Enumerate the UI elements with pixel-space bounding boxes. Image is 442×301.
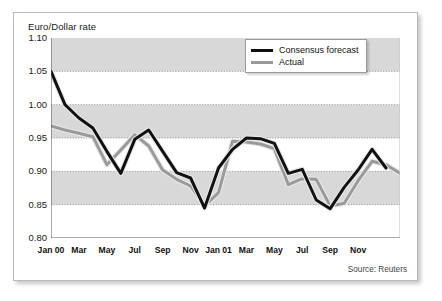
x-axis-tick-label: Mar bbox=[71, 245, 86, 255]
y-axis-tick-label: 0.80 bbox=[19, 232, 47, 243]
y-axis-tick-label: 0.95 bbox=[19, 132, 47, 143]
x-axis-tick-label: Jul bbox=[129, 245, 141, 255]
y-axis-tick-label: 1.10 bbox=[19, 32, 47, 43]
x-axis-tick-label: Sep bbox=[155, 245, 171, 255]
legend-item-actual: Actual bbox=[251, 56, 359, 68]
legend-swatch-consensus-forecast bbox=[251, 49, 273, 52]
x-axis-tick-label: May bbox=[98, 245, 115, 255]
x-axis-tick-label: May bbox=[266, 245, 283, 255]
legend-swatch-actual bbox=[251, 61, 273, 64]
x-axis-tick-label: Jul bbox=[296, 245, 308, 255]
legend-label-actual: Actual bbox=[279, 57, 304, 68]
y-axis-tick-label: 1.00 bbox=[19, 99, 47, 110]
y-axis-title: Euro/Dollar rate bbox=[28, 21, 96, 32]
legend-item-consensus-forecast: Consensus forecast bbox=[251, 44, 359, 56]
x-axis-tick-label: Jan 00 bbox=[38, 245, 65, 255]
y-axis-tick-label: 0.85 bbox=[19, 199, 47, 210]
x-axis-tick-label: Mar bbox=[239, 245, 254, 255]
x-axis-tick-label: Jan 01 bbox=[205, 245, 232, 255]
legend-label-consensus-forecast: Consensus forecast bbox=[279, 45, 359, 56]
y-axis-tick-label: 1.05 bbox=[19, 65, 47, 76]
chart-legend: Consensus forecast Actual bbox=[245, 39, 367, 73]
x-axis-tick-label: Nov bbox=[182, 245, 198, 255]
x-axis-tick-label: Sep bbox=[322, 245, 338, 255]
y-axis-tick-label: 0.90 bbox=[19, 165, 47, 176]
x-axis-tick-label: Nov bbox=[350, 245, 366, 255]
source-note: Source: Reuters bbox=[348, 265, 407, 274]
chart-card: Euro/Dollar rate 1.101.051.000.950.900.8… bbox=[13, 12, 418, 281]
